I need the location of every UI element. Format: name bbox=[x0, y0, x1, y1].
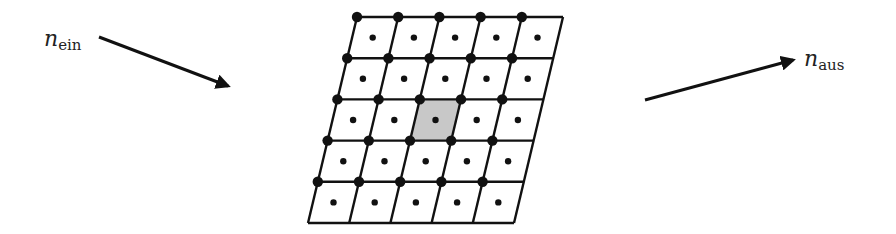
outgoing-arrow bbox=[645, 60, 793, 100]
grid-column-line bbox=[349, 17, 398, 223]
lattice-node bbox=[507, 53, 517, 63]
cell-center-dot bbox=[401, 76, 407, 82]
cell-center-dot bbox=[495, 199, 501, 205]
lattice-node bbox=[434, 12, 444, 22]
cell-center-dot bbox=[483, 76, 489, 82]
lattice-grid bbox=[308, 12, 563, 223]
cell-center-dot bbox=[493, 34, 499, 40]
incoming-symbol: n bbox=[44, 26, 58, 51]
lattice-node bbox=[354, 177, 364, 187]
lattice-node bbox=[373, 94, 383, 104]
incoming-subscript: ein bbox=[58, 36, 82, 54]
cell-center-dot bbox=[505, 158, 511, 164]
lattice-node bbox=[322, 135, 332, 145]
cell-center-dot bbox=[454, 199, 460, 205]
lattice-node bbox=[352, 12, 362, 22]
lattice-node bbox=[395, 177, 405, 187]
incoming-label: nein bbox=[44, 26, 82, 54]
lattice-node bbox=[436, 177, 446, 187]
cell-center-dot bbox=[423, 158, 429, 164]
cell-center-dot bbox=[372, 199, 378, 205]
lattice-diagram: nein naus bbox=[0, 0, 896, 234]
lattice-node bbox=[342, 53, 352, 63]
grid-column-line bbox=[514, 17, 563, 223]
cell-center-dot bbox=[413, 199, 419, 205]
cell-center-dot bbox=[381, 158, 387, 164]
outgoing-symbol: n bbox=[804, 46, 818, 71]
cell-center-dot bbox=[340, 158, 346, 164]
cell-center-dot bbox=[534, 34, 540, 40]
cell-center-dot bbox=[525, 76, 531, 82]
cell-center-dot bbox=[370, 34, 376, 40]
cell-center-dot bbox=[464, 158, 470, 164]
lattice-node bbox=[456, 94, 466, 104]
incoming-arrow bbox=[99, 37, 228, 86]
lattice-node bbox=[393, 12, 403, 22]
cell-center-dot bbox=[330, 199, 336, 205]
lattice-node bbox=[477, 177, 487, 187]
grid-column-line bbox=[308, 17, 357, 223]
lattice-node bbox=[424, 53, 434, 63]
lattice-node bbox=[446, 135, 456, 145]
lattice-node bbox=[466, 53, 476, 63]
lattice-node bbox=[517, 12, 527, 22]
lattice-node bbox=[487, 135, 497, 145]
cell-center-dot bbox=[432, 117, 438, 123]
lattice-node bbox=[313, 177, 323, 187]
cell-center-dot bbox=[360, 76, 366, 82]
lattice-node bbox=[415, 94, 425, 104]
cell-center-dot bbox=[350, 117, 356, 123]
cell-center-dot bbox=[515, 117, 521, 123]
outgoing-subscript: aus bbox=[818, 56, 844, 74]
cell-center-dot bbox=[411, 34, 417, 40]
cell-center-dot bbox=[391, 117, 397, 123]
cell-center-dot bbox=[474, 117, 480, 123]
lattice-node bbox=[383, 53, 393, 63]
lattice-node bbox=[332, 94, 342, 104]
lattice-node bbox=[475, 12, 485, 22]
lattice-node bbox=[405, 135, 415, 145]
lattice-node bbox=[364, 135, 374, 145]
grid-column-line bbox=[473, 17, 522, 223]
lattice-node bbox=[497, 94, 507, 104]
cell-center-dot bbox=[452, 34, 458, 40]
outgoing-label: naus bbox=[804, 46, 844, 74]
cell-center-dot bbox=[442, 76, 448, 82]
